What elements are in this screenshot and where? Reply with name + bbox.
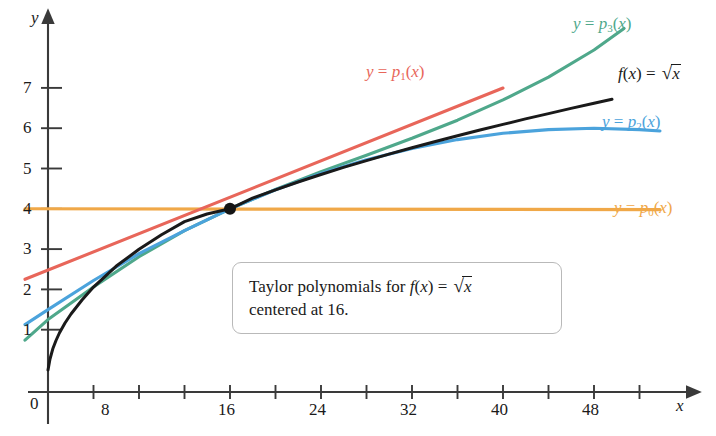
caption-box: Taylor polynomials for f(x) = √x centere… — [232, 262, 562, 334]
x-tick-label-24: 24 — [309, 400, 326, 420]
curve-label-p2: y = p2(x) — [602, 112, 661, 132]
y-tick-label-3: 3 — [23, 239, 32, 259]
tangent-point-marker — [224, 203, 236, 215]
curve-label-p0: y = p0(x) — [614, 198, 673, 218]
y-tick-label-1: 1 — [23, 320, 32, 340]
curve-label-f: f(x) = √x — [618, 62, 680, 84]
x-tick-label-48: 48 — [582, 400, 599, 420]
caption-line-2: centered at 16. — [249, 299, 547, 321]
y-tick-label-7: 7 — [23, 78, 32, 98]
x-tick-label-40: 40 — [491, 400, 508, 420]
y-tick-label-2: 2 — [23, 280, 32, 300]
x-tick-label-32: 32 — [400, 400, 417, 420]
curve-p1 — [25, 88, 503, 279]
origin-tick-label: 0 — [30, 394, 39, 414]
curve-label-p3: y = p3(x) — [573, 14, 632, 34]
x-tick-label-8: 8 — [101, 400, 110, 420]
y-axis-label: y — [31, 8, 39, 28]
y-tick-label-6: 6 — [23, 118, 32, 138]
curve-label-p1: y = p1(x) — [366, 62, 425, 82]
curve-p0 — [25, 209, 660, 210]
y-tick-label-4: 4 — [23, 199, 32, 219]
axis-lines — [28, 22, 688, 424]
taylor-polynomial-figure: y x 0 1 2 3 4 5 6 7 8 16 24 32 40 48 y =… — [0, 0, 716, 436]
x-tick-label-16: 16 — [218, 400, 235, 420]
plot-area — [0, 0, 716, 436]
caption-line-1: Taylor polynomials for f(x) = √x — [249, 274, 547, 299]
x-axis-label: x — [676, 396, 684, 416]
y-tick-label-5: 5 — [23, 159, 32, 179]
